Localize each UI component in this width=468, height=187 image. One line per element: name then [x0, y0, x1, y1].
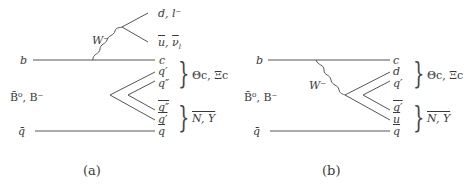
- a-label-decay-top: d, l⁻: [158, 8, 181, 19]
- a-label-decay-bottom: u, νl: [158, 37, 181, 53]
- b-pair2-upper: [363, 81, 390, 95]
- b-label-meson: B̄⁰, B⁻: [244, 92, 277, 103]
- b-label-qbar: q̄: [253, 126, 260, 137]
- a-w-decay-top: [122, 13, 148, 27]
- a-caption: (a): [83, 163, 101, 178]
- a-brace-top: }: [178, 58, 189, 88]
- a-brace-bottom: }: [178, 102, 189, 132]
- a-w-decay-bottom: [122, 27, 148, 42]
- b-label-out-qp: q′: [393, 78, 403, 89]
- a-label-w: W⁻: [92, 35, 109, 46]
- b-label-out-ubar: u: [393, 114, 400, 125]
- b-brace-bottom: }: [413, 102, 424, 132]
- b-pair1-lower: [345, 95, 390, 120]
- b-label-baryon-top: Θc, Ξc: [427, 70, 463, 81]
- a-label-qbar: q̄: [18, 126, 25, 137]
- a-label-out-qpp: q″: [158, 78, 169, 89]
- a-pair1-upper: [110, 72, 155, 95]
- b-pair1-upper: [345, 72, 390, 95]
- b-brace-top: }: [413, 58, 424, 88]
- a-pair2-upper: [128, 81, 155, 95]
- b-label-out-qbarp: q′: [393, 102, 403, 113]
- a-label-out-qp: q′: [158, 66, 168, 77]
- b-label-out-d: d: [393, 66, 400, 77]
- a-label-meson: B̄⁰, B⁻: [10, 92, 43, 103]
- b-label-baryon-bottom: N, Y: [427, 113, 450, 124]
- feynman-diagrams-canvas: [0, 0, 468, 187]
- b-label-b: b: [256, 55, 263, 66]
- a-label-out-qbar: q: [158, 126, 165, 137]
- a-label-out-qbarpp: q″: [158, 102, 169, 113]
- b-caption: (b): [322, 163, 340, 178]
- b-label-w: W⁻: [309, 80, 326, 91]
- a-label-baryon-top: Θc, Ξc: [192, 70, 228, 81]
- b-label-out-qbar: q: [393, 126, 400, 137]
- a-label-baryon-bottom: N, Y: [192, 113, 215, 124]
- a-label-out-qbarp: q′: [158, 114, 168, 125]
- a-pair1-lower: [110, 95, 155, 120]
- a-label-b: b: [20, 55, 27, 66]
